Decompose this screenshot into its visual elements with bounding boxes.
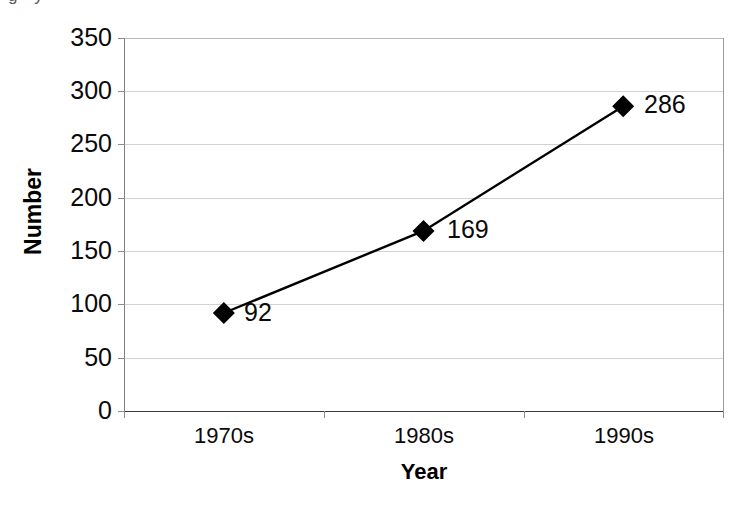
data-point-marker xyxy=(612,95,634,117)
x-tick-label-1980s: 1980s xyxy=(324,425,524,447)
gridline-150 xyxy=(124,251,723,252)
point-label-1980s: 169 xyxy=(447,217,489,242)
plot-border-top xyxy=(124,38,724,39)
y-tick-mark-250 xyxy=(118,144,125,145)
x-axis-title: Year xyxy=(124,459,724,485)
y-tick-mark-300 xyxy=(118,91,125,92)
y-axis-line xyxy=(124,38,125,412)
x-tick-mark-start xyxy=(124,411,125,418)
x-tick-mark-end xyxy=(723,411,724,418)
y-tick-label-300: 300 xyxy=(2,78,112,103)
gridline-50 xyxy=(124,358,723,359)
y-tick-label-50: 50 xyxy=(2,345,112,370)
x-tick-mark-2 xyxy=(524,411,525,418)
gridline-100 xyxy=(124,304,723,305)
gridline-300 xyxy=(124,91,723,92)
gridline-200 xyxy=(124,198,723,199)
data-point-marker xyxy=(213,302,235,324)
series-markers xyxy=(213,95,634,324)
x-tick-label-1990s: 1990s xyxy=(524,425,724,447)
y-axis-title: Number xyxy=(20,132,47,292)
cut-off-text-artifact: g y xyxy=(8,0,49,6)
y-tick-mark-100 xyxy=(118,304,125,305)
y-tick-label-200: 200 xyxy=(2,185,112,210)
chart-figure: g y 350 300 250 200 150 100 50 0 1970s 1… xyxy=(0,0,756,505)
y-tick-mark-200 xyxy=(118,198,125,199)
plot-border-right xyxy=(723,38,724,412)
y-tick-label-100: 100 xyxy=(2,291,112,316)
x-axis-line xyxy=(124,411,724,412)
y-tick-label-150: 150 xyxy=(2,238,112,263)
point-label-1970s: 92 xyxy=(244,300,272,325)
series-line xyxy=(224,106,623,313)
y-tick-label-0: 0 xyxy=(2,398,112,423)
gridline-250 xyxy=(124,144,723,145)
x-tick-label-1970s: 1970s xyxy=(124,425,324,447)
y-tick-mark-150 xyxy=(118,251,125,252)
y-tick-label-250: 250 xyxy=(2,131,112,156)
y-tick-mark-350 xyxy=(118,38,125,39)
data-point-marker xyxy=(413,220,435,242)
x-tick-mark-1 xyxy=(324,411,325,418)
point-label-1990s: 286 xyxy=(644,92,686,117)
y-tick-label-350: 350 xyxy=(2,25,112,50)
y-tick-mark-50 xyxy=(118,358,125,359)
